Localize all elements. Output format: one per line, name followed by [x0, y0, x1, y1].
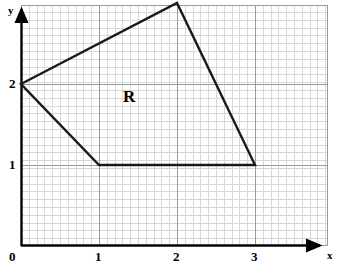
x-tick-label-0: 0: [9, 250, 16, 263]
minor-gridlines: [21, 5, 328, 246]
coordinate-grid-figure: y x 0 1 2 3 1 2 R: [0, 0, 337, 269]
y-axis-label: y: [8, 5, 14, 16]
x-tick-label-3: 3: [251, 250, 258, 263]
x-axis-label: x: [327, 250, 333, 261]
major-gridlines: [21, 5, 328, 246]
x-tick-label-1: 1: [95, 250, 102, 263]
y-tick-label-2: 2: [9, 77, 16, 90]
x-tick-label-2: 2: [173, 250, 180, 263]
y-tick-label-1: 1: [9, 158, 16, 171]
plot-canvas: [0, 0, 337, 269]
grid-border: [22, 6, 328, 246]
region-label-r: R: [123, 88, 135, 105]
